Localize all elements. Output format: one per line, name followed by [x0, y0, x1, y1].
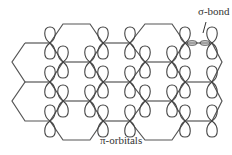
sigma-bond-label: σ-bond: [198, 6, 230, 17]
pi-orbitals-label: π-orbitals: [100, 135, 142, 146]
graphene-lattice-diagram: [0, 0, 232, 155]
sigma-bond: [185, 41, 212, 45]
sigma-bond-pointer: [203, 22, 206, 33]
